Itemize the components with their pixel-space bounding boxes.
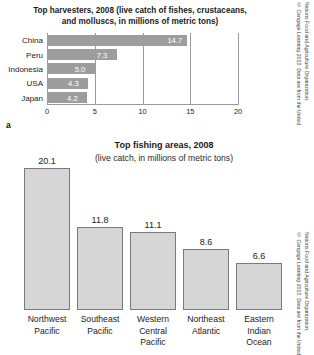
chart-a-bar-value: 14.7 (167, 36, 182, 45)
chart-b-bar-column: 20.1 (24, 168, 70, 310)
panel-b-credit-line-1: © Cengage Learning 2013. Data are from t… (296, 232, 302, 355)
chart-b-category-label: EasternIndianOcean (231, 314, 287, 349)
chart-b-plot-area: 20.111.811.18.66.6 (10, 168, 278, 310)
chart-a-bar-value: 4.3 (68, 79, 79, 88)
chart-b-category-label-line: Northeast (178, 314, 234, 326)
chart-a-gridline (238, 33, 239, 105)
chart-b-subtitle: (live catch, in millions of metric tons) (84, 153, 244, 164)
chart-b-category-label: WesternCentralPacific (125, 314, 181, 349)
chart-b-bar-value: 8.6 (183, 237, 229, 247)
chart-a-plot-area: China14.7Peru7.3Indonesia5.0USA4.3Japan4… (47, 33, 238, 105)
chart-b-category-label-line: Ocean (231, 337, 287, 349)
chart-b-bar-column: 6.6 (236, 168, 282, 310)
chart-a-category-label: Peru (26, 50, 43, 59)
chart-b-bar (130, 232, 176, 310)
chart-b-category-label: SoutheastPacific (72, 314, 128, 337)
chart-a-xtick-label: 10 (138, 107, 146, 116)
chart-b-bar-value: 20.1 (24, 156, 70, 166)
chart-a-bar-value: 4.2 (67, 93, 78, 102)
chart-a-bar-row: Japan4.2 (47, 91, 238, 105)
chart-b-category-label: NorthwestPacific (19, 314, 75, 337)
chart-a-category-label: Japan (21, 93, 43, 102)
chart-a-bar-value: 7.3 (97, 50, 108, 59)
chart-b-category-label: NortheastAtlantic (178, 314, 234, 337)
chart-a-category-label: USA (27, 79, 43, 88)
chart-a-bar-row: Indonesia5.0 (47, 62, 238, 76)
chart-a-bar (47, 35, 187, 46)
chart-b-category-label-line: Southeast (72, 314, 128, 326)
panel-a-letter-label: a (6, 120, 11, 130)
panel-b-credit-line-2: Nations Food and Agriculture Organizatio… (304, 232, 310, 332)
chart-b-bar-value: 11.8 (77, 215, 123, 225)
chart-b-category-label-line: Pacific (19, 326, 75, 338)
chart-b-bar-column: 11.1 (130, 168, 176, 310)
chart-b-category-label-line: Atlantic (178, 326, 234, 338)
chart-b-category-label-line: Pacific (125, 337, 181, 349)
panel-a-top-harvesters-chart: Top harvesters, 2008 (live catch of fish… (0, 0, 276, 134)
chart-b-bar-column: 11.8 (77, 168, 123, 310)
chart-a-bar-row: Peru7.3 (47, 47, 238, 61)
panel-a-credit-line-2: Nations Food and Agriculture Organizatio… (304, 2, 310, 102)
chart-b-bar (24, 168, 70, 310)
chart-a-title: Top harvesters, 2008 (live catch of fish… (26, 6, 254, 27)
chart-b-bar (183, 249, 229, 310)
chart-b-category-label-line: Pacific (72, 326, 128, 338)
chart-a-xtick-label: 5 (93, 107, 97, 116)
chart-b-bar-value: 6.6 (236, 251, 282, 261)
chart-a-category-label: Indonesia (8, 64, 43, 73)
chart-b-bar (236, 263, 282, 310)
panel-b-top-fishing-areas-chart: Top fishing areas, 2008 (live catch, in … (0, 138, 288, 355)
chart-b-bar (77, 227, 123, 310)
chart-b-category-label-line: Indian (231, 326, 287, 338)
chart-a-bar (47, 63, 95, 74)
chart-b-category-label-line: Eastern (231, 314, 287, 326)
chart-b-bar-value: 11.1 (130, 220, 176, 230)
chart-b-bar-column: 8.6 (183, 168, 229, 310)
chart-a-category-label: China (22, 36, 43, 45)
chart-a-xtick-label: 20 (234, 107, 242, 116)
chart-a-bar-row: USA4.3 (47, 76, 238, 90)
chart-a-xtick-label: 0 (45, 107, 49, 116)
chart-a-xtick-label: 15 (186, 107, 194, 116)
chart-b-title: Top fishing areas, 2008 (84, 140, 244, 150)
chart-a-bar-value: 5.0 (75, 64, 86, 73)
chart-b-category-label-line: Central (125, 326, 181, 338)
chart-a-bar-row: China14.7 (47, 33, 238, 47)
chart-b-category-label-line: Northwest (19, 314, 75, 326)
chart-b-category-label-line: Western (125, 314, 181, 326)
panel-a-credit-line-1: © Cengage Learning 2013. Data are from t… (296, 2, 302, 125)
